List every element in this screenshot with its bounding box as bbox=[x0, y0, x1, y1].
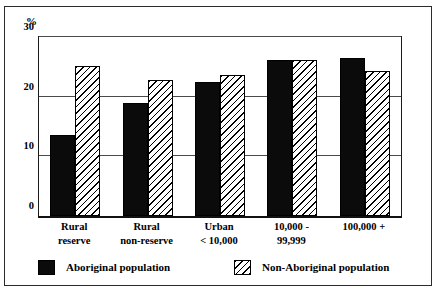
x-label-line1: Urban bbox=[204, 221, 233, 232]
bar-non-aboriginal bbox=[148, 80, 173, 216]
x-label-0: Ruralreserve bbox=[38, 220, 110, 248]
x-label-line2: 99,999 bbox=[255, 234, 327, 248]
bar-non-aboriginal bbox=[220, 75, 245, 216]
bar-aboriginal bbox=[267, 60, 292, 216]
bar-aboriginal bbox=[50, 135, 75, 216]
bar-group bbox=[111, 37, 183, 216]
x-label-2: Urban< 10,000 bbox=[183, 220, 255, 248]
x-label-line1: Rural bbox=[133, 221, 159, 232]
bar-group bbox=[39, 37, 111, 216]
bar-group bbox=[256, 37, 328, 216]
bar-chart-figure: % 0102030 RuralreserveRuralnon-reserveUr… bbox=[0, 0, 438, 294]
x-label-3: 10,000 -99,999 bbox=[255, 220, 327, 248]
x-label-line1: 100,000 + bbox=[342, 221, 385, 232]
legend-entry-2: Non-Aboriginal population bbox=[234, 258, 389, 276]
bar-non-aboriginal bbox=[75, 66, 100, 216]
legend-label: Aboriginal population bbox=[66, 261, 170, 273]
x-label-4: 100,000 + bbox=[328, 220, 400, 234]
bar-aboriginal bbox=[340, 58, 365, 216]
y-tick-label-20: 20 bbox=[24, 81, 35, 92]
plot-area: 0102030 bbox=[38, 36, 402, 218]
x-label-1: Ruralnon-reserve bbox=[110, 220, 182, 248]
solid-black-swatch bbox=[38, 260, 55, 275]
bar-group bbox=[329, 37, 401, 216]
bar-non-aboriginal bbox=[292, 60, 317, 216]
chart-legend: Aboriginal populationNon-Aboriginal popu… bbox=[38, 258, 420, 278]
y-tick-label-0: 0 bbox=[29, 201, 34, 212]
x-axis-category-labels: RuralreserveRuralnon-reserveUrban< 10,00… bbox=[38, 220, 400, 254]
x-label-line2: < 10,000 bbox=[183, 234, 255, 248]
bar-aboriginal bbox=[195, 82, 220, 216]
bar-aboriginal bbox=[123, 103, 148, 216]
bar-non-aboriginal bbox=[365, 71, 390, 216]
x-label-line2: non-reserve bbox=[110, 234, 182, 248]
legend-entry-1: Aboriginal population bbox=[38, 258, 170, 276]
bar-group bbox=[184, 37, 256, 216]
hatched-swatch bbox=[234, 260, 251, 275]
legend-label: Non-Aboriginal population bbox=[262, 261, 389, 273]
x-label-line1: Rural bbox=[61, 221, 87, 232]
x-label-line1: 10,000 - bbox=[274, 221, 309, 232]
x-label-line2: reserve bbox=[38, 234, 110, 248]
y-tick-label-10: 10 bbox=[24, 141, 35, 152]
y-tick-label-30: 30 bbox=[24, 22, 35, 33]
bar-groups bbox=[39, 37, 401, 216]
